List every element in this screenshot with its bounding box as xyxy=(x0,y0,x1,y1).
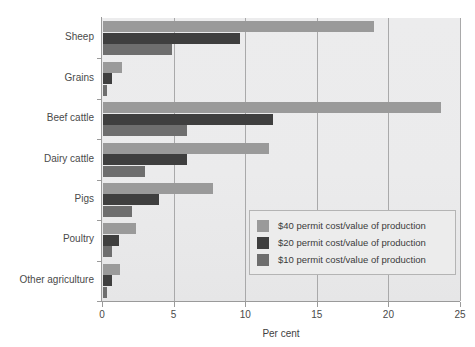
legend-swatch-10 xyxy=(257,254,269,266)
gridline xyxy=(460,18,461,301)
x-tick-label: 15 xyxy=(311,309,322,320)
x-tick xyxy=(317,302,318,307)
legend-item[interactable]: $20 permit cost/value of production xyxy=(257,234,448,251)
bar xyxy=(103,33,240,44)
bar xyxy=(103,73,112,84)
x-tick xyxy=(460,302,461,307)
legend-label-40: $40 permit cost/value of production xyxy=(278,220,426,231)
legend-item[interactable]: $10 permit cost/value of production xyxy=(257,251,448,268)
bar xyxy=(103,44,172,55)
bar xyxy=(103,183,213,194)
bar xyxy=(103,287,107,298)
category-label: Sheep xyxy=(65,31,94,42)
legend-swatch-40 xyxy=(257,220,269,232)
category-label: Grains xyxy=(65,72,94,83)
bar xyxy=(103,194,159,205)
bar xyxy=(103,264,120,275)
bar xyxy=(103,114,273,125)
x-axis-line xyxy=(101,301,460,302)
bar xyxy=(103,154,187,165)
x-tick-label: 5 xyxy=(171,309,177,320)
x-tick xyxy=(388,302,389,307)
bar xyxy=(103,275,112,286)
y-axis-line xyxy=(101,17,102,302)
category-label: Dairy cattle xyxy=(44,153,94,164)
x-tick xyxy=(174,302,175,307)
y-tick xyxy=(97,220,102,221)
x-axis-title: Per cent xyxy=(102,328,460,339)
category-label: Poultry xyxy=(63,233,94,244)
y-tick xyxy=(97,139,102,140)
legend-label-10: $10 permit cost/value of production xyxy=(278,254,426,265)
x-tick-label: 20 xyxy=(383,309,394,320)
bar xyxy=(103,206,132,217)
x-tick xyxy=(245,302,246,307)
y-tick xyxy=(97,99,102,100)
clipped-title xyxy=(0,0,475,5)
y-tick xyxy=(97,180,102,181)
bar xyxy=(103,223,136,234)
legend: $40 permit cost/value of production $20 … xyxy=(249,210,456,275)
bar xyxy=(103,125,187,136)
category-label: Other agriculture xyxy=(20,274,94,285)
bar xyxy=(103,166,145,177)
bar-chart: SheepGrainsBeef cattleDairy cattlePigsPo… xyxy=(0,0,475,347)
legend-label-20: $20 permit cost/value of production xyxy=(278,237,426,248)
bar xyxy=(103,102,441,113)
x-tick-label: 10 xyxy=(240,309,251,320)
x-tick-label: 25 xyxy=(454,309,465,320)
bar xyxy=(103,85,107,96)
x-tick xyxy=(102,302,103,307)
bar xyxy=(103,235,119,246)
category-label: Pigs xyxy=(75,193,94,204)
category-label: Beef cattle xyxy=(47,112,94,123)
x-tick-label: 0 xyxy=(99,309,105,320)
y-tick xyxy=(97,261,102,262)
y-tick xyxy=(97,58,102,59)
gridline xyxy=(245,18,246,301)
bar xyxy=(103,21,374,32)
bar xyxy=(103,143,269,154)
bar xyxy=(103,62,122,73)
legend-swatch-20 xyxy=(257,237,269,249)
bar xyxy=(103,246,112,257)
legend-item[interactable]: $40 permit cost/value of production xyxy=(257,217,448,234)
